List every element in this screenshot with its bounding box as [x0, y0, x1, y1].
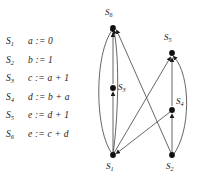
node-label-s3: S3	[118, 83, 126, 93]
node-label-s4: S4	[176, 97, 184, 107]
statement-label: S6	[6, 129, 28, 140]
edge-s1-s6-inner	[113, 31, 118, 154]
figure-root: S1 a := 0 S2 b := 1 S3 c := a + 1 S4 d :…	[0, 0, 200, 181]
statement-code: d := b + a	[28, 92, 70, 102]
node-s5[interactable]	[169, 50, 175, 56]
statement-code: b := 1	[28, 55, 53, 65]
statement-label: S5	[6, 110, 28, 121]
statement-label: S2	[6, 55, 28, 66]
node-label-s5: S5	[164, 33, 172, 43]
node-s2[interactable]	[169, 152, 175, 158]
node-s3[interactable]	[110, 85, 116, 91]
node-label-s6: S6	[105, 8, 113, 18]
edge-s1-s6-outer	[99, 29, 113, 155]
graph-canvas	[90, 0, 200, 181]
statement-row: S5 e := d + 1	[6, 110, 90, 129]
statement-label: S1	[6, 36, 28, 47]
node-s1[interactable]	[110, 152, 116, 158]
statement-row: S2 b := 1	[6, 55, 90, 74]
statement-list: S1 a := 0 S2 b := 1 S3 c := a + 1 S4 d :…	[6, 36, 90, 147]
node-s6[interactable]	[110, 25, 116, 31]
dependence-graph: S6 S5 S3 S4 S1 S2	[90, 0, 200, 181]
statement-row: S1 a := 0	[6, 36, 90, 55]
edge-s1-s5	[114, 58, 170, 153]
statement-label: S4	[6, 92, 28, 103]
statement-row: S3 c := a + 1	[6, 73, 90, 92]
statement-row: S6 e := c + d	[6, 129, 90, 148]
node-s4[interactable]	[169, 107, 175, 113]
node-label-s1: S1	[106, 162, 114, 172]
statement-code: e := d + 1	[28, 110, 69, 120]
statement-code: a := 0	[28, 36, 53, 46]
statement-label: S3	[6, 73, 28, 84]
statement-row: S4 d := b + a	[6, 92, 90, 111]
statement-code: c := a + 1	[28, 73, 69, 83]
statement-code: e := c + d	[28, 129, 69, 139]
node-label-s2: S2	[166, 162, 174, 172]
